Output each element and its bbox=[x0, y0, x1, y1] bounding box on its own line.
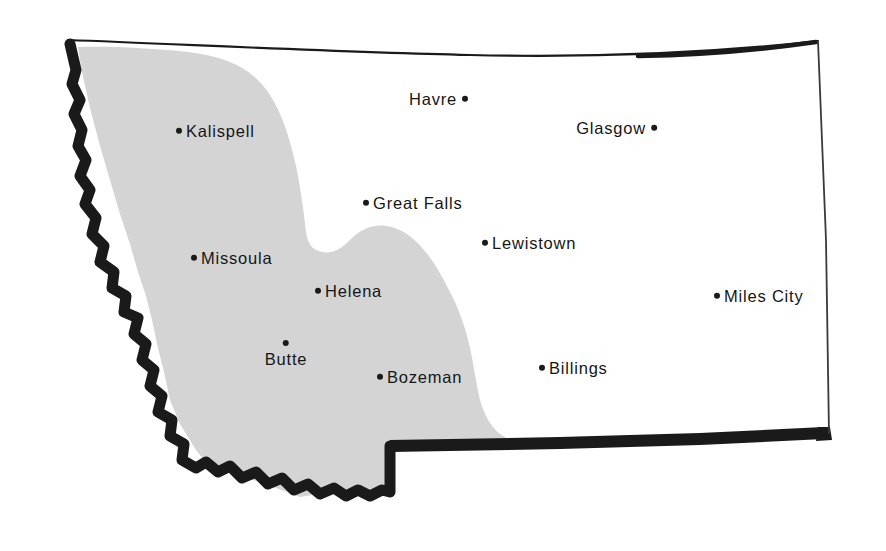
state-outline-svg bbox=[0, 0, 886, 551]
montana-map: Havre Glasgow Kalispell Great Falls Lewi… bbox=[0, 0, 886, 551]
city-label: Great Falls bbox=[373, 195, 463, 212]
city-dot-icon bbox=[714, 293, 720, 299]
city-bozeman[interactable]: Bozeman bbox=[377, 369, 462, 386]
city-miles-city[interactable]: Miles City bbox=[714, 288, 804, 305]
city-dot-icon bbox=[462, 96, 468, 102]
city-dot-icon bbox=[191, 255, 197, 261]
city-dot-icon bbox=[651, 125, 657, 131]
city-butte[interactable]: Butte bbox=[265, 340, 308, 368]
city-great-falls[interactable]: Great Falls bbox=[363, 195, 463, 212]
city-label: Lewistown bbox=[492, 235, 576, 252]
city-label: Bozeman bbox=[387, 369, 462, 386]
city-lewistown[interactable]: Lewistown bbox=[482, 235, 576, 252]
city-dot-icon bbox=[283, 340, 289, 346]
city-dot-icon bbox=[176, 128, 182, 134]
city-label: Kalispell bbox=[186, 123, 255, 140]
city-label: Billings bbox=[549, 360, 608, 377]
city-dot-icon bbox=[363, 200, 369, 206]
city-billings[interactable]: Billings bbox=[539, 360, 608, 377]
city-glasgow[interactable]: Glasgow bbox=[576, 120, 657, 137]
city-dot-icon bbox=[539, 365, 545, 371]
city-label: Helena bbox=[325, 283, 382, 300]
city-label: Glasgow bbox=[576, 120, 646, 137]
city-dot-icon bbox=[377, 374, 383, 380]
city-label: Havre bbox=[409, 91, 457, 108]
city-dot-icon bbox=[482, 240, 488, 246]
city-label: Butte bbox=[265, 351, 308, 368]
city-label: Miles City bbox=[724, 288, 804, 305]
city-kalispell[interactable]: Kalispell bbox=[176, 123, 255, 140]
city-label: Missoula bbox=[201, 250, 273, 267]
city-havre[interactable]: Havre bbox=[409, 91, 468, 108]
city-dot-icon bbox=[315, 288, 321, 294]
city-missoula[interactable]: Missoula bbox=[191, 250, 273, 267]
city-helena[interactable]: Helena bbox=[315, 283, 382, 300]
